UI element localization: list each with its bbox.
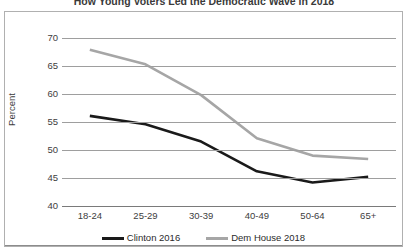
chart-title: How Young Voters Led the Democratic Wave… xyxy=(0,0,408,7)
legend-label: Clinton 2016 xyxy=(127,233,180,243)
legend-swatch xyxy=(102,237,124,240)
legend-entry: Dem House 2018 xyxy=(206,233,305,243)
gridline xyxy=(62,66,396,67)
y-axis-tick-labels: 70656055504540 xyxy=(4,0,58,251)
y-axis-tick-label: 65 xyxy=(12,61,58,71)
chart-legend: Clinton 2016Dem House 2018 xyxy=(4,231,403,245)
gridline xyxy=(62,150,396,151)
y-axis-tick-label: 40 xyxy=(12,201,58,211)
gridline xyxy=(62,122,396,123)
gridline xyxy=(62,178,396,179)
x-axis-tick-label: 40-49 xyxy=(245,211,269,221)
x-axis-tick-label: 50-64 xyxy=(300,211,324,221)
chart-figure: How Young Voters Led the Democratic Wave… xyxy=(0,0,408,251)
plot-area xyxy=(62,38,396,206)
x-axis-tick-label: 65+ xyxy=(360,211,376,221)
x-axis-tick-label: 18-24 xyxy=(78,211,102,221)
gridline xyxy=(62,94,396,95)
y-axis-tick-label: 50 xyxy=(12,145,58,155)
y-axis-tick-label: 60 xyxy=(12,89,58,99)
y-axis-tick-label: 45 xyxy=(12,173,58,183)
legend-divider xyxy=(5,245,402,246)
x-axis-line xyxy=(62,206,396,207)
gridline xyxy=(62,38,396,39)
legend-entry: Clinton 2016 xyxy=(102,233,180,243)
x-axis-tick-label: 25-29 xyxy=(133,211,157,221)
legend-swatch xyxy=(206,237,228,240)
y-axis-tick-label: 55 xyxy=(12,117,58,127)
x-axis-tick-labels: 18-2425-2930-3940-4950-6465+ xyxy=(62,211,396,225)
x-axis-tick-label: 30-39 xyxy=(189,211,213,221)
y-axis-tick-label: 70 xyxy=(12,33,58,43)
legend-label: Dem House 2018 xyxy=(231,233,305,243)
